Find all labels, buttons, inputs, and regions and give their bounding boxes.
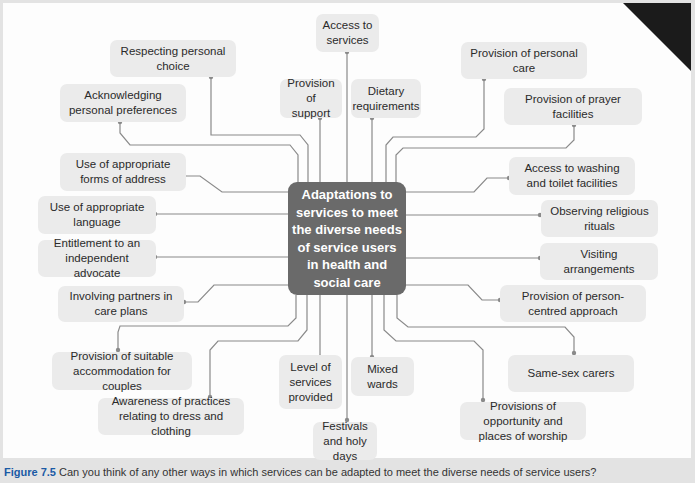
node-acknowledging-personal-preferences: Acknowledging personal preferences	[60, 84, 186, 122]
figure-caption: Figure 7.5 Can you think of any other wa…	[4, 466, 597, 478]
figure-label: Figure 7.5	[4, 466, 56, 478]
node-use-of-appropriate-language: Use of appropriate language	[38, 196, 156, 234]
node-provision-of-support: Provision of support	[280, 79, 342, 118]
node-mixed-wards: Mixed wards	[351, 357, 414, 396]
node-entitlement-to-independent-advocate: Entitlement to an independent advocate	[38, 240, 156, 277]
node-festivals-and-holy-days: Festivals and holy days	[313, 422, 377, 460]
central-concept: Adaptations to services to meet the dive…	[288, 182, 406, 295]
node-level-of-services-provided: Level of services provided	[279, 355, 342, 409]
node-dietary-requirements: Dietary requirements	[351, 79, 421, 118]
node-same-sex-carers: Same-sex carers	[508, 355, 634, 392]
node-provision-of-person-centred-approach: Provision of person-centred approach	[500, 285, 646, 322]
node-access-to-washing-and-toilet-facilities: Access to washing and toilet facilities	[509, 157, 635, 195]
node-provision-of-suitable-accommodation: Provision of suitable accommodation for …	[52, 352, 192, 390]
node-provision-of-personal-care: Provision of personal care	[461, 42, 587, 79]
caption-text: Can you think of any other ways in which…	[59, 466, 596, 478]
node-observing-religious-rituals: Observing religious rituals	[541, 200, 658, 237]
node-respecting-personal-choice: Respecting personal choice	[110, 40, 236, 77]
node-use-of-appropriate-forms-of-address: Use of appropriate forms of address	[60, 153, 186, 191]
node-visiting-arrangements: Visiting arrangements	[540, 243, 658, 280]
node-provision-of-prayer-facilities: Provision of prayer facilities	[504, 88, 642, 125]
node-access-to-services: Access to services	[316, 14, 379, 52]
node-provisions-of-opportunity-worship: Provisions of opportunity and places of …	[460, 402, 586, 440]
node-involving-partners-in-care-plans: Involving partners in care plans	[58, 286, 184, 322]
node-awareness-of-practices-dress: Awareness of practices relating to dress…	[98, 398, 244, 435]
